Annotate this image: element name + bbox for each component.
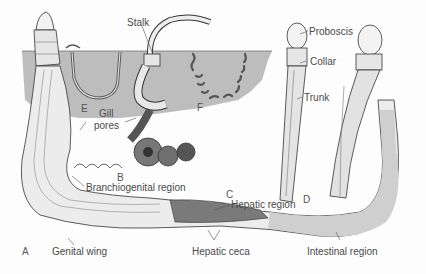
label-gill-pores-line1: Gill <box>99 108 113 119</box>
worm-d <box>330 25 382 198</box>
label-trunk: Trunk <box>304 92 329 103</box>
label-gill-pores-line2: pores <box>94 120 119 131</box>
panel-letter-f: F <box>197 102 203 113</box>
panel-letter-d: D <box>303 194 310 205</box>
label-stalk: Stalk <box>127 17 149 28</box>
illustration <box>0 0 426 274</box>
label-hepatic-ceca: Hepatic ceca <box>192 246 250 257</box>
label-intestinal-region: Intestinal region <box>307 246 378 257</box>
label-genital-wing: Genital wing <box>52 246 107 257</box>
label-hepatic-region: Hepatic region <box>231 199 295 210</box>
worm-c <box>280 23 307 202</box>
panel-letter-a: A <box>22 246 29 257</box>
label-branchiogenital-region: Branchiogenital region <box>86 182 186 193</box>
label-collar: Collar <box>310 56 336 67</box>
panel-letter-e: E <box>81 103 88 114</box>
label-proboscis: Proboscis <box>309 26 353 37</box>
acorn-worm-diagram: A B C D E F Stalk Proboscis Collar Trunk… <box>0 0 426 274</box>
